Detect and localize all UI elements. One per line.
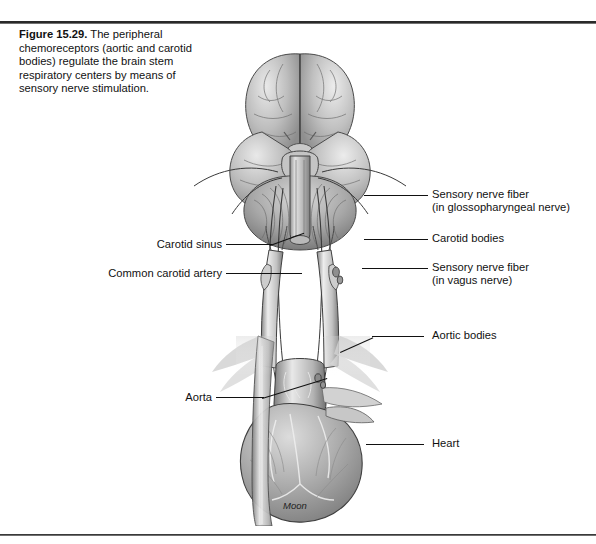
label-carotid-bodies: Carotid bodies — [432, 232, 504, 245]
label-line-1: Common carotid artery — [104, 267, 222, 280]
top-divider-rule — [0, 21, 596, 24]
leader-line-sensory-nerve-glossopharyngeal — [364, 195, 428, 196]
label-line-1: Sensory nerve fiber — [432, 188, 570, 201]
leader-line-common-carotid-artery — [226, 273, 302, 274]
label-line-1: Heart — [432, 437, 459, 450]
label-line-2: (in vagus nerve) — [432, 274, 529, 287]
label-aorta: Aorta — [180, 391, 212, 404]
figure-number: Figure 15.29. — [19, 28, 87, 40]
bottom-divider-rule — [0, 534, 596, 536]
label-line-1: Carotid sinus — [148, 238, 222, 251]
label-heart: Heart — [432, 437, 459, 450]
label-line-1: Carotid bodies — [432, 232, 504, 245]
artist-signature: Moon — [283, 500, 307, 511]
label-sensory-nerve-fiber-vagus: Sensory nerve fiber (in vagus nerve) — [432, 261, 529, 288]
anatomy-illustration — [150, 36, 450, 526]
leader-line-aorta — [216, 397, 264, 398]
figure-page: Figure 15.29. The peripheral chemorecept… — [0, 0, 596, 544]
leader-line-aortic-bodies — [372, 336, 424, 337]
label-carotid-sinus: Carotid sinus — [148, 238, 222, 251]
leader-line-carotid-bodies — [364, 239, 428, 240]
leader-line-heart — [366, 444, 424, 445]
label-line-1: Aortic bodies — [432, 329, 497, 342]
leader-line-carotid-sinus — [226, 244, 272, 245]
leader-line-sensory-nerve-vagus — [362, 268, 428, 269]
label-aortic-bodies: Aortic bodies — [432, 329, 497, 342]
label-line-2: (in glossopharyngeal nerve) — [432, 201, 570, 214]
brain-stem-group — [290, 156, 310, 245]
label-line-1: Sensory nerve fiber — [432, 261, 529, 274]
label-line-1: Aorta — [180, 391, 212, 404]
label-sensory-nerve-fiber-glossopharyngeal: Sensory nerve fiber (in glossopharyngeal… — [432, 188, 570, 215]
label-common-carotid-artery: Common carotid artery — [104, 267, 222, 280]
